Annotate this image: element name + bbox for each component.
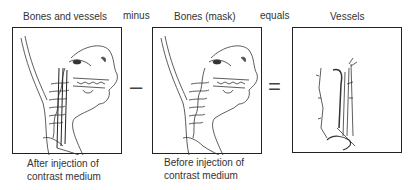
caption-after-injection-line2: contrast medium (27, 170, 101, 183)
panel-title-vessels: Vessels (330, 11, 364, 22)
minus-operator: – (130, 76, 142, 98)
panel-title-bones-and-vessels: Bones and vessels (23, 11, 107, 22)
vessels-only-illustration (293, 28, 403, 154)
caption-after-injection: After injection of contrast medium (27, 157, 101, 183)
panel-title-bones-mask: Bones (mask) (174, 11, 236, 22)
caption-after-injection-line1: After injection of (27, 157, 101, 170)
panel-vessels (292, 27, 402, 153)
panel-bones-mask (152, 27, 262, 154)
head-neck-with-vessels-illustration (13, 28, 123, 155)
caption-before-injection-line1: Before injection of (164, 156, 244, 169)
operator-word-minus: minus (123, 10, 150, 21)
operator-word-equals: equals (260, 10, 289, 21)
caption-before-injection-line2: contrast medium (164, 169, 244, 182)
caption-before-injection: Before injection of contrast medium (164, 156, 244, 182)
head-neck-bones-illustration (153, 28, 263, 155)
panel-bones-and-vessels (12, 27, 122, 154)
equals-operator: = (268, 76, 281, 98)
